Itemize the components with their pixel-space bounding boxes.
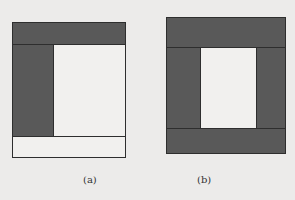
- figure-b-label: (b): [197, 174, 211, 185]
- figure-a-label: (a): [83, 174, 97, 185]
- figure-a-bottom-divider: [12, 136, 126, 137]
- figure-b-window: [200, 47, 257, 129]
- figure-a-top-band: [12, 22, 126, 45]
- figure-a-left-column: [12, 44, 54, 137]
